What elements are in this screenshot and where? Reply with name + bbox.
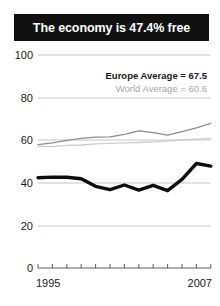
country-line [38,164,211,191]
y-tick-label-20: 20 [21,220,33,232]
y-tick-label-60: 60 [21,134,33,146]
x-tick-label-start: 1995 [36,277,60,289]
y-tick-label-100: 100 [15,49,33,61]
chart-plot-area: 100 80 60 40 20 0 Europe Average = 67.5 … [0,0,220,306]
legend: Europe Average = 67.5 World Average = 60… [106,70,208,94]
series-europe-average [38,123,211,144]
legend-europe-label: Europe Average = 67.5 [106,70,208,81]
x-axis-labels: 1995 2007 [36,277,212,289]
y-axis-labels: 100 80 60 40 20 0 [15,49,33,274]
y-tick-label-40: 40 [21,177,33,189]
europe-average-line [38,123,211,144]
chart-container: The economy is 47.4% free 100 80 60 40 2… [0,0,220,306]
series-country [38,164,211,191]
x-axis [38,264,211,268]
x-tick-label-end: 2007 [188,277,212,289]
y-tick-label-0: 0 [27,262,33,274]
legend-world-label: World Average = 60.6 [116,83,207,94]
y-tick-label-80: 80 [21,92,33,104]
